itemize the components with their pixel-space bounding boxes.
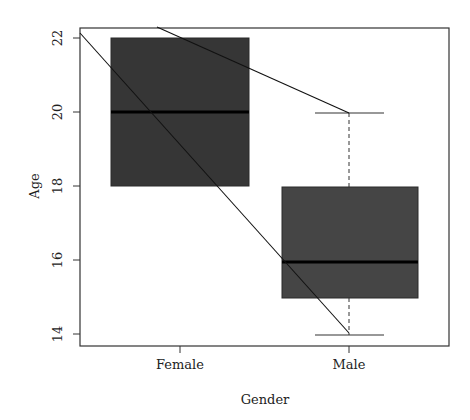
x-tick-female: Female bbox=[156, 357, 204, 372]
y-axis bbox=[73, 38, 80, 334]
box-male bbox=[282, 113, 418, 335]
boxplot-chart: 22 20 18 16 14 Female Male Gender Age bbox=[0, 0, 470, 420]
x-axis-title: Gender bbox=[241, 392, 290, 407]
y-axis-title: Age bbox=[27, 173, 42, 200]
y-tick-18: 18 bbox=[50, 178, 65, 195]
y-tick-14: 14 bbox=[50, 326, 65, 343]
y-tick-22: 22 bbox=[50, 30, 65, 47]
box-female bbox=[111, 38, 249, 186]
y-tick-16: 16 bbox=[50, 252, 65, 269]
x-axis bbox=[180, 346, 349, 353]
y-tick-20: 20 bbox=[50, 104, 65, 121]
x-tick-male: Male bbox=[333, 357, 366, 372]
